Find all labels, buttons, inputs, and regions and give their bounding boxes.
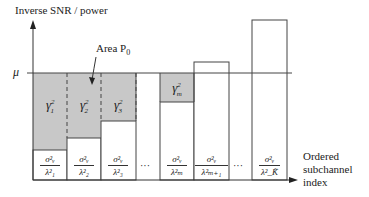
noise-label-2: σ²ᵥλ²₂ [67, 154, 101, 177]
ellipsis-1: ··· [140, 160, 150, 171]
x-axis-label-line-3: index [303, 176, 352, 189]
y-axis-label: Inverse SNR / power [15, 5, 108, 16]
ellipsis-2: ··· [233, 160, 243, 171]
gamma-label-1: γ21 [33, 97, 67, 115]
x-axis-label-line-2: subchannel [303, 163, 352, 176]
noise-label-m-plus-1: σ²ᵥλ²ₘ₊₁ [194, 154, 229, 177]
area-annotation: Area P0 [96, 43, 130, 57]
y-axis-arrow-icon [30, 20, 36, 29]
x-axis-arrow-icon [289, 177, 298, 183]
x-axis-label: Ordered subchannel index [303, 150, 352, 189]
water-level-label: μ [13, 66, 19, 78]
gamma-label-2: γ22 [67, 97, 101, 115]
noise-label-1: σ²ᵥλ²₁ [33, 154, 67, 177]
gamma-label-3: γ23 [101, 97, 135, 115]
area-annotation-text: Area P [96, 42, 126, 54]
noise-label-K: σ²ᵥλ²_K̃ [252, 154, 287, 177]
area-annotation-sub: 0 [126, 48, 130, 57]
noise-label-m: σ²ᵥλ²ₘ [160, 154, 194, 177]
noise-label-3: σ²ᵥλ²₃ [101, 154, 135, 177]
gamma-label-m: γ2m [160, 80, 194, 98]
x-axis-label-line-1: Ordered [303, 150, 352, 163]
